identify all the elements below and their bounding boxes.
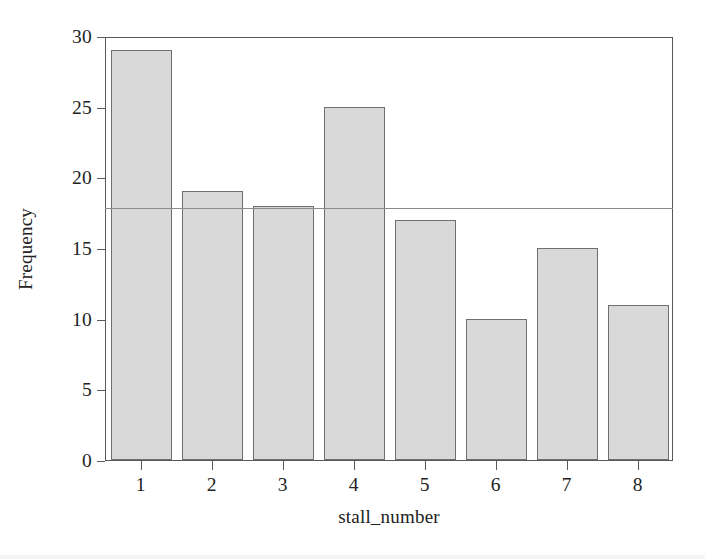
x-tick-label: 7 (562, 474, 572, 496)
x-tick-mark (425, 461, 426, 470)
x-tick-label: 6 (491, 474, 501, 496)
x-tick-mark (212, 461, 213, 470)
x-tick-label: 4 (349, 474, 359, 496)
x-tick-mark (496, 461, 497, 470)
x-tick-label: 2 (207, 474, 217, 496)
x-tick-mark (638, 461, 639, 470)
x-tick-label: 8 (633, 474, 643, 496)
scan-artifact-band (0, 555, 705, 559)
x-axis-label: stall_number (338, 506, 440, 528)
x-tick-mark (283, 461, 284, 470)
bar-chart-figure: 051015202530 Frequency 12345678 stall_nu… (0, 0, 705, 559)
x-axis: 12345678 (0, 0, 705, 559)
x-tick-label: 3 (278, 474, 288, 496)
reference-line (105, 208, 673, 209)
x-tick-mark (567, 461, 568, 470)
x-tick-label: 5 (420, 474, 430, 496)
x-tick-mark (354, 461, 355, 470)
x-tick-label: 1 (136, 474, 146, 496)
x-tick-mark (141, 461, 142, 470)
